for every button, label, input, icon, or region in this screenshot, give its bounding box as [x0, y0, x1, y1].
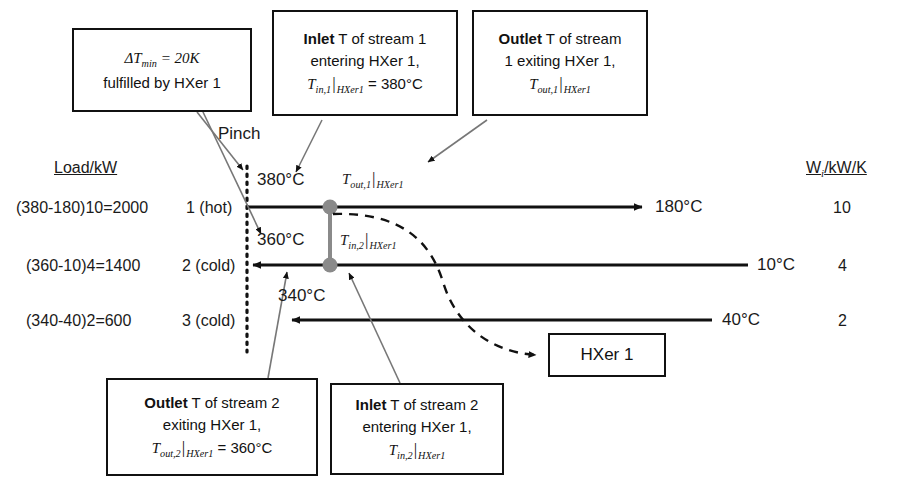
callout-inlet1-rest: T of stream 1 — [334, 30, 426, 47]
dtmin-symbol: ΔT — [124, 50, 141, 66]
pinch-label: Pinch — [218, 123, 261, 144]
stream-2-name: 2 (cold) — [182, 256, 235, 276]
connector-outlet1-to-label — [428, 120, 487, 162]
dtmin-value: = 20K — [157, 50, 200, 66]
callout-outlet1-bold: Outlet — [499, 30, 542, 47]
stream-1-outlet-temp: 180°C — [655, 196, 702, 217]
callout-outlet1-line1: Outlet T of stream — [499, 28, 622, 50]
stream-2-inlet-temp: 10°C — [757, 254, 795, 275]
connector-inlet1-to-temp — [296, 120, 322, 172]
callout-outlet-stream1[interactable]: Outlet T of stream 1 exiting HXer 1, Tou… — [472, 10, 648, 116]
stream-2-w-value: 4 — [838, 256, 847, 276]
callout-inlet2-sym: T — [389, 442, 397, 458]
stream-3-load: (340-40)2=600 — [26, 311, 131, 331]
callout-outlet2-line3: Tout,2|HXer1 = 360°C — [152, 435, 273, 462]
callout-dtmin[interactable]: ΔTmin = 20K fulfilled by HXer 1 — [72, 28, 252, 112]
callout-inlet-stream1[interactable]: Inlet T of stream 1 entering HXer 1, Tin… — [272, 10, 458, 116]
callout-inlet1-line3: Tin,1|HXer1 = 380°C — [307, 71, 423, 98]
callout-outlet2-sub: out,2 — [160, 448, 181, 459]
callout-inlet2-line2: entering HXer 1, — [362, 416, 471, 438]
exchanger-node-stream2 — [323, 258, 338, 273]
callout-inlet1-sub2: HXer1 — [337, 84, 364, 95]
callout-outlet2-bold: Outlet — [144, 394, 187, 411]
callout-outlet2-line1: Outlet T of stream 2 — [144, 392, 279, 414]
t-in-2-eval-subscript: HXer1 — [369, 240, 396, 251]
callout-inlet2-bold: Inlet — [356, 396, 387, 413]
callout-inlet1-line2: entering HXer 1, — [310, 50, 419, 72]
callout-dtmin-line2: fulfilled by HXer 1 — [103, 72, 221, 94]
stream-3-outlet-temp: 340°C — [278, 285, 325, 306]
callout-inlet-stream2[interactable]: Inlet T of stream 2 entering HXer 1, Tin… — [330, 383, 504, 475]
stream-1-name: 1 (hot) — [186, 198, 232, 218]
t-out-1-subscript: out,1 — [350, 179, 371, 190]
t-in-2-subscript: in,2 — [348, 240, 364, 251]
stream-3-name: 3 (cold) — [182, 311, 235, 331]
stream-2-load: (360-10)4=1400 — [26, 256, 140, 276]
stream-1-w-value: 10 — [833, 198, 851, 218]
w-column-header: Wi/kW/K — [806, 158, 867, 181]
callout-inlet1-value: = 380°C — [364, 75, 423, 92]
stream-2-outlet-temp: 360°C — [257, 229, 304, 250]
callout-outlet1-sub2: HXer1 — [564, 84, 591, 95]
t-out-1-label: Tout,1|HXer1 — [342, 168, 404, 192]
callout-outlet1-rest: T of stream — [542, 30, 621, 47]
callout-inlet1-sym: T — [307, 76, 315, 92]
stream-1-load: (380-180)10=2000 — [16, 198, 148, 218]
callout-inlet1-sub: in,1 — [316, 84, 332, 95]
callout-inlet2-line3: Tin,2|HXer1 — [389, 437, 446, 464]
callout-inlet1-bold: Inlet — [304, 30, 335, 47]
stream-3-inlet-temp: 40°C — [722, 309, 760, 330]
callout-outlet2-rest: T of stream 2 — [188, 394, 280, 411]
callout-outlet2-sub2: HXer1 — [186, 448, 213, 459]
callout-outlet2-line2: exiting HXer 1, — [163, 414, 261, 436]
exchanger-node-stream1 — [323, 200, 338, 215]
callout-inlet2-sub2: HXer1 — [418, 450, 445, 461]
callout-inlet2-line1: Inlet T of stream 2 — [356, 394, 479, 416]
stream-3-w-value: 2 — [838, 311, 847, 331]
connector-inlet2-to-label — [349, 273, 400, 383]
t-out-1-eval-subscript: HXer1 — [376, 179, 403, 190]
hxer-1-label: HXer 1 — [581, 345, 634, 365]
callout-outlet-stream2[interactable]: Outlet T of stream 2 exiting HXer 1, Tou… — [106, 378, 318, 476]
load-column-header: Load/kW — [54, 158, 117, 178]
callout-dtmin-line1: ΔTmin = 20K — [124, 47, 199, 72]
callout-inlet2-rest: T of stream 2 — [386, 396, 478, 413]
callout-outlet1-sym: T — [529, 76, 537, 92]
w-header-symbol: W — [806, 159, 821, 176]
dtmin-subscript: min — [142, 58, 157, 69]
callout-outlet1-sub: out,1 — [538, 84, 559, 95]
stream-1-inlet-temp: 380°C — [257, 169, 304, 190]
callout-outlet1-line2: 1 exiting HXer 1, — [505, 50, 616, 72]
callout-outlet1-line3: Tout,1|HXer1 — [529, 71, 591, 98]
t-in-2-label: Tin,2|HXer1 — [340, 229, 397, 253]
callout-outlet2-value: = 360°C — [213, 439, 272, 456]
diagram-canvas: Load/kW Wi/kW/K Pinch (380-180)10=2000 1… — [0, 0, 897, 500]
callout-inlet2-sub: in,2 — [397, 450, 413, 461]
callout-inlet1-line1: Inlet T of stream 1 — [304, 28, 427, 50]
hxer-1-box[interactable]: HXer 1 — [548, 333, 666, 377]
w-header-rest: /kW/K — [824, 159, 867, 176]
callout-outlet2-sym: T — [152, 440, 160, 456]
